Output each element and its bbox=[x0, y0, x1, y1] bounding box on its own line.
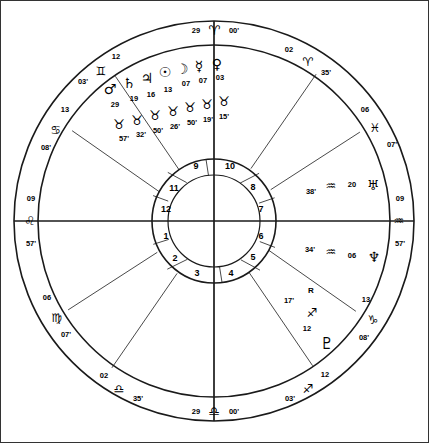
house-number-12: 12 bbox=[161, 205, 171, 214]
planet-glyph-saturn: ♄ bbox=[123, 76, 136, 90]
house-number-10: 10 bbox=[225, 162, 235, 171]
mc-minute: 00' bbox=[229, 27, 239, 35]
planet-sign-glyph-venus: ♉ bbox=[218, 95, 230, 108]
asc-degree: 09 bbox=[27, 195, 35, 203]
planet-glyph-venus: ♀ bbox=[212, 57, 222, 71]
house-divider-5-4 bbox=[220, 267, 223, 283]
planet-glyph-jupiter: ♃ bbox=[141, 71, 154, 85]
cusp-5-degree: 12 bbox=[321, 371, 329, 379]
uranus-sign-glyph: ♒ bbox=[326, 180, 337, 192]
cusp-12-minute: 08' bbox=[41, 144, 51, 152]
cusp-11-degree: 12 bbox=[112, 53, 120, 61]
cusp-9-degree: 02 bbox=[285, 46, 293, 54]
planet-minute-jupiter: 50' bbox=[153, 127, 163, 135]
mc-sign-glyph: ♈ bbox=[208, 24, 220, 37]
cusp-5-sign-glyph: ♐ bbox=[303, 383, 314, 395]
cusp-line-8 bbox=[271, 132, 360, 190]
cusp-3-minute: 35' bbox=[133, 395, 143, 403]
cusp-line-3 bbox=[112, 273, 177, 367]
cusp-line-6 bbox=[269, 250, 356, 311]
house-number-9: 9 bbox=[193, 162, 198, 171]
cusp-12-degree: 13 bbox=[61, 106, 69, 114]
planet-sign-glyph-moon: ♉ bbox=[184, 101, 196, 114]
asc-minute: 57' bbox=[26, 240, 36, 248]
cusp-line-5 bbox=[249, 272, 313, 366]
pluto-minute: 17' bbox=[284, 297, 294, 305]
asc-sign-glyph: ♌ bbox=[25, 215, 36, 227]
planet-minute-saturn: 32' bbox=[136, 131, 146, 139]
dsc-minute: 57' bbox=[395, 240, 405, 248]
house-number-3: 3 bbox=[194, 269, 199, 278]
planet-minute-mars: 57' bbox=[119, 135, 129, 143]
cusp-line-9 bbox=[251, 74, 316, 168]
ic-degree: 29 bbox=[192, 408, 200, 416]
planet-sign-glyph-mars: ♉ bbox=[113, 118, 125, 131]
dsc-sign-glyph: ♒ bbox=[394, 215, 405, 227]
house-number-11: 11 bbox=[169, 184, 179, 193]
cusp-9-minute: 35' bbox=[321, 69, 331, 77]
planet-degree-jupiter: 16 bbox=[147, 91, 155, 99]
planet-sign-glyph-sun: ♉ bbox=[167, 105, 179, 118]
planet-degree-saturn: 19 bbox=[130, 95, 138, 103]
planet-sign-glyph-saturn: ♉ bbox=[131, 114, 143, 127]
pluto-retrograde-mark: R bbox=[308, 286, 314, 295]
cusp-2-sign-glyph: ♍ bbox=[52, 312, 63, 324]
ic-minute: 00' bbox=[229, 408, 239, 416]
planet-minute-moon: 50' bbox=[187, 119, 197, 127]
house-number-6: 6 bbox=[258, 232, 263, 241]
cusp-line-12 bbox=[72, 131, 159, 192]
uranus-degree: 20 bbox=[348, 181, 356, 189]
cusp-11-sign-glyph: ♊ bbox=[96, 65, 107, 77]
pluto-sign-glyph: ♐ bbox=[307, 307, 318, 319]
planet-glyph-sun: ☉ bbox=[159, 65, 172, 79]
planet-minute-sun: 26' bbox=[170, 123, 180, 131]
cusp-9-sign-glyph: ♈ bbox=[303, 56, 314, 68]
planet-degree-mercury: 07 bbox=[199, 77, 207, 85]
cusp-6-minute: 08' bbox=[359, 334, 369, 342]
cusp-5-minute: 03' bbox=[285, 395, 295, 403]
ic-sign-glyph: ♎ bbox=[208, 405, 220, 418]
house-number-1: 1 bbox=[163, 232, 168, 241]
cusp-8-degree: 06 bbox=[361, 106, 369, 114]
planet-glyph-pluto: ♇ bbox=[320, 336, 334, 352]
cusp-3-degree: 02 bbox=[100, 372, 108, 380]
astrology-chart-wheel: 29 ♈ 00' 29 ♎ 00' 09 ♌ 57' 09 ♒ 57' 12 ♊… bbox=[0, 0, 429, 443]
planet-degree-sun: 13 bbox=[164, 86, 172, 94]
cusp-8-sign-glyph: ♓ bbox=[370, 122, 381, 134]
cusp-2-degree: 06 bbox=[43, 294, 51, 302]
cusp-3-sign-glyph: ♎ bbox=[114, 383, 125, 395]
uranus-minute: 38' bbox=[306, 188, 316, 196]
planet-degree-mars: 29 bbox=[111, 101, 119, 109]
house-number-7: 7 bbox=[258, 205, 263, 214]
dsc-degree: 09 bbox=[396, 195, 404, 203]
planet-glyph-uranus: ♅ bbox=[367, 178, 380, 192]
planet-minute-mercury: 19' bbox=[203, 116, 213, 124]
cusp-6-sign-glyph: ♑ bbox=[368, 314, 379, 326]
house-number-8: 8 bbox=[250, 183, 255, 192]
planet-sign-glyph-mercury: ♉ bbox=[201, 98, 213, 111]
cusp-8-minute: 07' bbox=[387, 141, 397, 149]
house-number-2: 2 bbox=[172, 254, 177, 263]
neptune-minute: 34' bbox=[305, 246, 315, 254]
cusp-11-minute: 03' bbox=[78, 78, 88, 86]
planet-minute-venus: 15' bbox=[219, 113, 229, 121]
mc-degree: 29 bbox=[192, 27, 200, 35]
planet-glyph-mars: ♂ bbox=[104, 82, 117, 96]
planet-sign-glyph-jupiter: ♉ bbox=[149, 109, 161, 122]
house-number-5: 5 bbox=[250, 253, 255, 262]
planet-glyph-mercury: ☿ bbox=[195, 59, 204, 73]
cusp-line-2 bbox=[68, 252, 157, 310]
planet-degree-venus: 03 bbox=[216, 74, 224, 82]
planet-glyph-neptune: ♆ bbox=[368, 250, 381, 264]
planet-degree-moon: 07 bbox=[182, 80, 190, 88]
cusp-2-minute: 07' bbox=[61, 331, 71, 339]
house-number-4: 4 bbox=[228, 269, 233, 278]
cusp-12-sign-glyph: ♋ bbox=[51, 124, 62, 136]
neptune-sign-glyph: ♒ bbox=[326, 246, 337, 258]
cusp-6-degree: 13 bbox=[362, 296, 370, 304]
planet-glyph-moon: ☽ bbox=[176, 62, 189, 76]
pluto-degree: 12 bbox=[303, 325, 311, 333]
house-divider-10-9 bbox=[206, 159, 209, 175]
neptune-degree: 06 bbox=[348, 252, 356, 260]
